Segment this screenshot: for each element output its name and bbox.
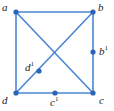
vertex-label-c-text: c xyxy=(99,94,104,106)
vertex-label-c1: c1 xyxy=(50,97,58,108)
vertex-label-d1-superscript: 1 xyxy=(31,60,35,68)
vertex-label-b-text: b xyxy=(98,1,104,13)
vertex-label-b1: b1 xyxy=(99,46,108,57)
vertex-label-d-text: d xyxy=(2,94,8,106)
graph-vertex-d xyxy=(13,90,18,95)
vertex-label-b: b xyxy=(98,2,104,13)
graph-vertex-c xyxy=(90,90,95,95)
vertex-label-d1: d1 xyxy=(25,62,34,73)
vertex-label-b1-superscript: 1 xyxy=(105,44,109,52)
graph-figure: a b b1 d1 d c1 c xyxy=(0,0,114,111)
vertex-label-d: d xyxy=(2,95,8,106)
vertex-label-c: c xyxy=(99,95,104,106)
edges-group xyxy=(16,12,93,93)
vertex-label-c1-superscript: 1 xyxy=(55,95,59,103)
vertex-label-a-text: a xyxy=(2,1,8,13)
graph-canvas xyxy=(0,0,114,111)
graph-vertex-b xyxy=(90,9,95,14)
graph-vertex-b1 xyxy=(90,49,95,54)
vertex-label-a: a xyxy=(2,2,8,13)
graph-vertex-d1 xyxy=(36,68,41,73)
graph-vertex-a xyxy=(13,9,18,14)
